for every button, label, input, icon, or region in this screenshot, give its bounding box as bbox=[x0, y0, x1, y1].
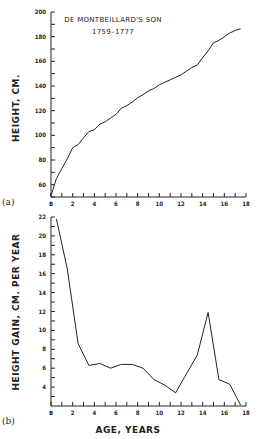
y-tick-label: 4 bbox=[42, 383, 46, 390]
y-tick-label: 120 bbox=[35, 107, 47, 114]
height-chart: DE MONTBEILLARD'S SON 1759–1777 HEIGHT, … bbox=[2, 8, 250, 207]
y-tick-label: 80 bbox=[38, 156, 46, 163]
y-tick-label: 60 bbox=[38, 181, 46, 188]
x-tick-label: 4 bbox=[92, 409, 96, 416]
x-axis-title: AGE, YEARS bbox=[95, 425, 160, 435]
axes: B246810121416186080100120140160180200 bbox=[35, 8, 250, 207]
axes: B2468101214161846810121416182022 bbox=[38, 213, 250, 416]
x-tick-label: 2 bbox=[71, 200, 75, 207]
x-tick-label: B bbox=[49, 200, 53, 207]
velocity-chart: HEIGHT GAIN, CM. PER YEAR AGE, YEARS (b)… bbox=[2, 213, 250, 435]
height-line bbox=[51, 29, 241, 196]
chart-title: DE MONTBEILLARD'S SON bbox=[64, 16, 161, 24]
panel-label: (a) bbox=[2, 197, 14, 207]
x-tick-label: 2 bbox=[71, 409, 75, 416]
x-tick-label: 8 bbox=[136, 409, 140, 416]
y-tick-label: 180 bbox=[35, 33, 47, 40]
x-tick-label: 16 bbox=[221, 409, 229, 416]
y-tick-label: 14 bbox=[38, 289, 46, 296]
x-tick-label: 14 bbox=[199, 409, 207, 416]
x-tick-label: B bbox=[49, 409, 53, 416]
y-axis-title: HEIGHT, CM. bbox=[11, 74, 21, 142]
y-tick-label: 140 bbox=[35, 82, 47, 89]
x-tick-label: 18 bbox=[242, 200, 250, 207]
growth-charts: DE MONTBEILLARD'S SON 1759–1777 HEIGHT, … bbox=[0, 0, 261, 439]
x-tick-label: 6 bbox=[114, 200, 118, 207]
x-tick-label: 10 bbox=[156, 409, 164, 416]
x-tick-label: 4 bbox=[92, 200, 96, 207]
y-tick-label: 10 bbox=[38, 326, 46, 333]
x-tick-label: 14 bbox=[199, 200, 207, 207]
y-tick-label: 16 bbox=[38, 270, 46, 277]
y-tick-label: 100 bbox=[35, 131, 47, 138]
y-tick-label: 22 bbox=[38, 213, 46, 220]
chart-subtitle: 1759–1777 bbox=[92, 28, 134, 36]
velocity-line bbox=[56, 219, 240, 405]
y-tick-label: 6 bbox=[42, 364, 46, 371]
y-tick-label: 200 bbox=[35, 8, 47, 15]
y-tick-label: 160 bbox=[35, 57, 47, 64]
x-tick-label: 18 bbox=[242, 409, 250, 416]
x-tick-label: 12 bbox=[177, 409, 185, 416]
y-tick-label: 20 bbox=[38, 232, 46, 239]
x-tick-label: 16 bbox=[221, 200, 229, 207]
y-tick-label: 18 bbox=[38, 251, 46, 258]
x-tick-label: 10 bbox=[156, 200, 164, 207]
y-axis-title: HEIGHT GAIN, CM. PER YEAR bbox=[11, 234, 21, 391]
y-tick-label: 12 bbox=[38, 308, 46, 315]
x-tick-label: 12 bbox=[177, 200, 185, 207]
panel-label: (b) bbox=[2, 416, 15, 426]
y-tick-label: 8 bbox=[42, 345, 46, 352]
x-tick-label: 8 bbox=[136, 200, 140, 207]
x-tick-label: 6 bbox=[114, 409, 118, 416]
